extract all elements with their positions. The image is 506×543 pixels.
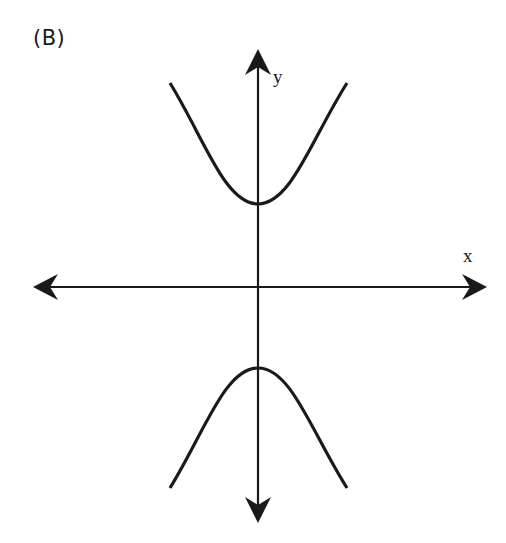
hyperbola-plot: y x (0, 0, 506, 543)
y-axis-label: y (273, 66, 283, 87)
x-axis (33, 274, 487, 300)
x-axis-label: x (463, 245, 473, 266)
